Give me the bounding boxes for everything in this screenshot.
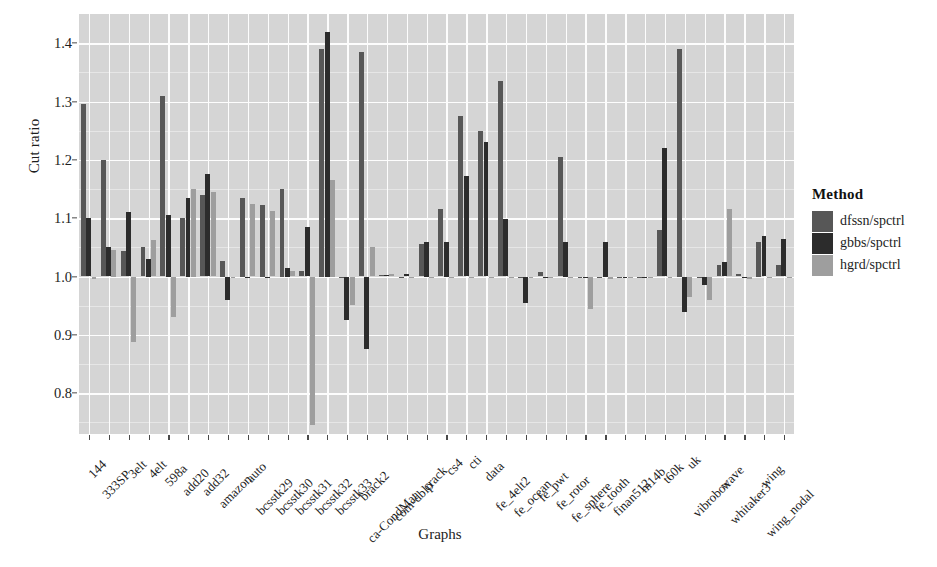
bar: [424, 242, 429, 277]
legend-label: gbbs/spctrl: [840, 235, 901, 251]
y-tick-mark: [72, 393, 77, 394]
x-tick-mark: [566, 435, 567, 440]
bar: [270, 211, 275, 276]
x-tick-mark: [327, 435, 328, 440]
y-tick-label: 0.8: [26, 385, 72, 402]
bar: [370, 247, 375, 276]
bar: [379, 275, 384, 277]
y-axis-ticks: 0.80.91.01.11.21.31.4: [0, 14, 72, 434]
x-tick-label: 144: [99, 443, 124, 468]
legend: Method dfssn/spctrlgbbs/spctrlhgrd/spctr…: [812, 186, 932, 276]
bar: [429, 277, 434, 278]
x-tick-mark: [367, 435, 368, 440]
bar: [86, 218, 91, 276]
x-tick-mark: [705, 435, 706, 440]
bar: [350, 277, 355, 305]
x-tick-mark: [744, 435, 745, 440]
gridline-vertical: [724, 14, 725, 434]
bar: [588, 277, 593, 309]
bar: [141, 247, 146, 276]
gridline-vertical: [109, 14, 110, 434]
gridline-vertical: [744, 14, 745, 434]
bar: [285, 268, 290, 277]
bar: [280, 189, 285, 277]
bar: [126, 212, 131, 276]
bar: [211, 192, 216, 277]
bar: [191, 189, 196, 277]
bar: [503, 219, 508, 276]
y-tick-label: 1.4: [26, 35, 72, 52]
bar: [121, 251, 126, 277]
bar: [171, 277, 176, 318]
bar: [180, 218, 185, 276]
bar: [111, 250, 116, 276]
legend-label: hgrd/spctrl: [840, 257, 901, 273]
bar: [464, 176, 469, 276]
legend-item: gbbs/spctrl: [812, 232, 932, 254]
x-tick-mark: [407, 435, 408, 440]
gridline-vertical: [526, 14, 527, 434]
gridline-vertical: [625, 14, 626, 434]
bar: [781, 239, 786, 277]
bar: [101, 160, 106, 277]
bar: [543, 277, 548, 278]
legend-title: Method: [812, 186, 932, 203]
gridline-vertical: [546, 14, 547, 434]
gridline-vertical: [685, 14, 686, 434]
y-tick-label: 1.2: [26, 151, 72, 168]
x-tick-mark: [685, 435, 686, 440]
bar: [529, 277, 534, 278]
gridline-vertical: [566, 14, 567, 434]
bar: [617, 277, 622, 278]
gridline-major: [79, 393, 794, 394]
x-tick-label: cti: [474, 443, 495, 464]
x-tick-mark: [288, 435, 289, 440]
bar: [438, 209, 443, 276]
gridline-major: [79, 335, 794, 336]
bar: [160, 96, 165, 277]
bar: [330, 180, 335, 276]
bar: [767, 277, 772, 278]
y-tick-label: 0.9: [26, 326, 72, 343]
legend-swatch: [812, 233, 833, 254]
gridline-vertical: [387, 14, 388, 434]
x-tick-mark: [89, 435, 90, 440]
x-tick-mark: [645, 435, 646, 440]
legend-swatch: [812, 255, 833, 276]
bar: [339, 277, 344, 278]
bar: [762, 236, 767, 277]
gridline-major: [79, 160, 794, 161]
bar: [523, 277, 528, 303]
x-tick-mark: [764, 435, 765, 440]
x-tick-mark: [526, 435, 527, 440]
bar: [548, 277, 553, 278]
y-tick-label: 1.0: [26, 268, 72, 285]
gridline-minor: [79, 131, 794, 132]
bar: [776, 265, 781, 277]
gridline-vertical: [347, 14, 348, 434]
x-tick-mark: [427, 435, 428, 440]
bar: [245, 277, 250, 278]
gridline-vertical: [407, 14, 408, 434]
bar: [250, 204, 255, 277]
gridline-vertical: [585, 14, 586, 434]
plot-panel: [79, 14, 794, 434]
bar: [106, 247, 111, 276]
x-tick-mark: [268, 435, 269, 440]
bar: [657, 230, 662, 277]
bar: [444, 242, 449, 277]
gridline-vertical: [605, 14, 606, 434]
gridline-vertical: [446, 14, 447, 434]
x-tick-mark: [506, 435, 507, 440]
bar: [568, 277, 573, 278]
x-tick-mark: [724, 435, 725, 440]
gridline-vertical: [268, 14, 269, 434]
bar: [489, 277, 494, 278]
gridline-vertical: [307, 14, 308, 434]
legend-swatch: [812, 211, 833, 232]
bar: [231, 277, 236, 278]
bar: [325, 32, 330, 277]
bar: [697, 277, 702, 278]
bar: [518, 277, 523, 278]
bar: [409, 277, 414, 278]
